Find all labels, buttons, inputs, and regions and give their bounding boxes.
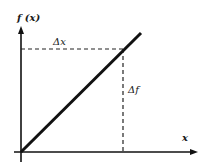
x-axis: [14, 149, 198, 155]
y-axis-arrow-icon: [18, 26, 24, 34]
x-axis-label: x: [181, 132, 189, 143]
function-graph: f (x) x Δx Δf: [0, 0, 210, 167]
y-axis-label: f (x): [16, 12, 40, 23]
delta-x-label: Δx: [52, 36, 66, 47]
delta-f-label: Δf: [127, 84, 141, 95]
x-axis-arrow-icon: [190, 149, 198, 155]
y-axis: [18, 26, 24, 162]
